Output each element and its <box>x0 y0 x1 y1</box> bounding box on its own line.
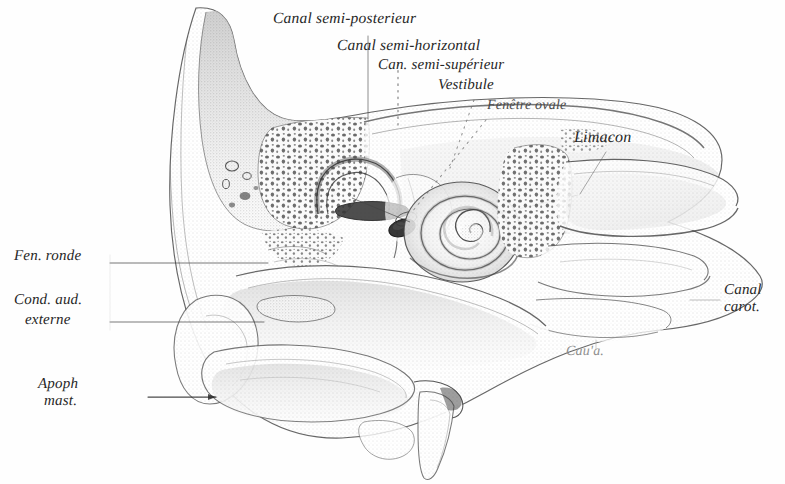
label-apoph-mast-line2: mast. <box>44 394 77 410</box>
label-can-semi-superieur: Can. semi-supérieur <box>378 58 504 74</box>
label-canal-carot-line1: Canal <box>724 283 762 299</box>
label-limacon: Limacon <box>574 130 631 147</box>
label-cond-aud-externe-line1: Cond. aud. <box>14 293 82 309</box>
label-cond-aud-externe-line2: externe <box>25 313 71 329</box>
label-canal-semi-horizontal: Canal semi-horizontal <box>337 38 480 54</box>
label-fen-ronde: Fen. ronde <box>14 249 81 265</box>
label-apoph-mast-line1: Apoph <box>38 377 78 393</box>
label-fenetre-ovale: Fenêtre ovale <box>487 99 566 114</box>
anatomical-figure: Canal semi-posterieur Canal semi-horizon… <box>0 0 785 484</box>
label-canal-carot-line2: carot. <box>724 300 760 316</box>
label-vestibule: Vestibule <box>438 78 494 94</box>
label-canal-semi-posterieur: Canal semi-posterieur <box>273 11 416 27</box>
label-cau-a: Cau'a. <box>566 345 604 360</box>
